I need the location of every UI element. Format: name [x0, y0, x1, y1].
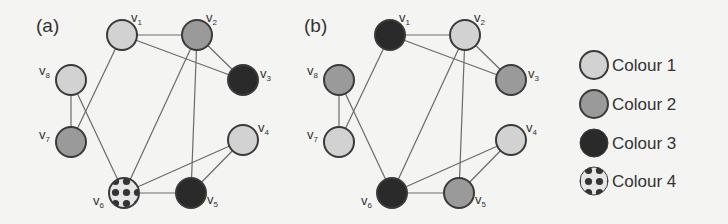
edge-v2-v6: [124, 35, 197, 193]
legend-item-4: Colour 4: [580, 167, 676, 195]
vertex-v5: [176, 178, 206, 208]
vertex-v7: [56, 127, 86, 157]
legend-item-1: Colour 1: [580, 51, 676, 79]
graph-a: (a)v1v2v3v4v5v6v7v8: [36, 10, 272, 210]
vertex-label: v6: [93, 193, 105, 210]
graphs-layer: (a)v1v2v3v4v5v6v7v8(b)v1v2v3v4v5v6v7v8: [36, 10, 540, 210]
edge-v2-v6: [392, 35, 465, 193]
vertex-label: v5: [207, 192, 219, 209]
panel-label: (a): [36, 15, 59, 36]
vertex-label: v4: [526, 120, 538, 137]
vertex-label: v8: [39, 63, 51, 80]
graph-b: (b)v1v2v3v4v5v6v7v8: [304, 10, 540, 210]
vertex-v5: [444, 178, 474, 208]
edge-v2-v5: [191, 35, 197, 193]
legend-swatch: [580, 167, 608, 195]
legend-item-3: Colour 3: [580, 129, 676, 157]
vertex-label: v1: [399, 10, 411, 27]
vertex-label: v4: [258, 120, 270, 137]
legend-swatch: [580, 129, 608, 157]
vertex-v3: [496, 65, 526, 95]
vertex-v3: [228, 65, 258, 95]
vertex-v7: [324, 127, 354, 157]
legend-label: Colour 1: [612, 56, 676, 75]
vertices: v1v2v3v4v5v6v7v8: [39, 10, 272, 210]
vertex-v4: [228, 125, 258, 155]
panel-label: (b): [304, 15, 327, 36]
vertex-v4: [496, 125, 526, 155]
legend-swatch: [580, 90, 608, 118]
legend-label: Colour 2: [612, 95, 676, 114]
vertex-v6: [109, 178, 139, 208]
vertex-label: v3: [528, 66, 540, 83]
figure-canvas: (a)v1v2v3v4v5v6v7v8(b)v1v2v3v4v5v6v7v8 C…: [0, 0, 728, 224]
vertex-label: v1: [131, 10, 143, 27]
legend-item-2: Colour 2: [580, 90, 676, 118]
vertex-v8: [324, 65, 354, 95]
vertex-label: v8: [307, 63, 319, 80]
legend-swatch: [580, 51, 608, 79]
vertex-label: v2: [474, 10, 486, 27]
vertices: v1v2v3v4v5v6v7v8: [307, 10, 540, 210]
graph-colouring-figure: (a)v1v2v3v4v5v6v7v8(b)v1v2v3v4v5v6v7v8 C…: [0, 0, 728, 224]
vertex-v6: [377, 178, 407, 208]
vertex-label: v2: [206, 10, 218, 27]
vertex-label: v7: [39, 127, 51, 144]
vertex-label: v5: [475, 192, 487, 209]
edges: [71, 35, 243, 193]
legend-label: Colour 3: [612, 134, 676, 153]
edge-v2-v5: [459, 35, 465, 193]
legend: Colour 1Colour 2Colour 3Colour 4: [580, 51, 676, 195]
vertex-label: v6: [361, 193, 373, 210]
vertex-label: v3: [260, 66, 272, 83]
vertex-label: v7: [307, 127, 319, 144]
legend-label: Colour 4: [612, 172, 676, 191]
vertex-v8: [56, 65, 86, 95]
edges: [339, 35, 511, 193]
